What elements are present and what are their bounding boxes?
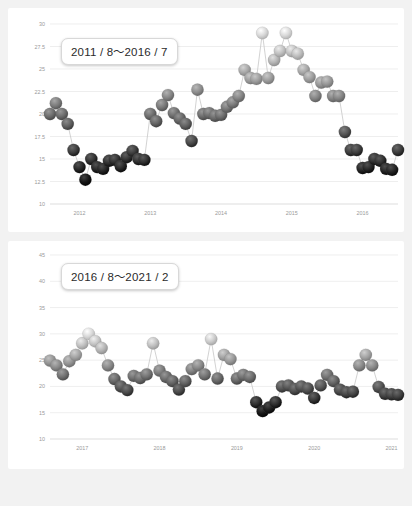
data-point-marker xyxy=(224,353,236,365)
y-axis-tick-label: 30 xyxy=(39,331,45,337)
data-point-marker xyxy=(347,385,359,397)
data-point-marker xyxy=(233,90,245,102)
y-axis-tick-label: 15 xyxy=(39,156,45,162)
data-point-marker xyxy=(392,144,404,156)
x-axis-tick-label: 2020 xyxy=(308,445,320,451)
y-axis-tick-label: 22.5 xyxy=(35,89,46,95)
x-axis-tick-label: 2017 xyxy=(76,445,88,451)
data-point-marker xyxy=(280,27,292,39)
data-point-marker xyxy=(274,45,286,57)
y-axis-tick-label: 40 xyxy=(39,278,45,284)
data-point-marker xyxy=(321,75,333,87)
data-point-marker xyxy=(262,72,274,84)
x-axis-tick-label: 2021 xyxy=(386,445,398,451)
data-point-marker xyxy=(292,48,304,60)
y-axis-tick-label: 15 xyxy=(39,410,45,416)
data-point-marker xyxy=(121,384,133,396)
chart-bottom-range-badge: 2016 / 8〜2021 / 2 xyxy=(61,263,179,290)
y-axis-tick-label: 45 xyxy=(39,252,45,258)
data-point-marker xyxy=(360,349,372,361)
data-point-marker xyxy=(73,161,85,173)
page-root: 1012.51517.52022.52527.53020122013201420… xyxy=(0,0,412,506)
data-point-marker xyxy=(309,90,321,102)
data-point-marker xyxy=(79,174,91,186)
data-point-marker xyxy=(366,359,378,371)
data-point-marker xyxy=(57,368,69,380)
y-axis-tick-label: 10 xyxy=(39,436,45,442)
y-axis-tick-label: 20 xyxy=(39,383,45,389)
chart-card-bottom: 101520253035404520172018201920202021 201… xyxy=(8,241,404,469)
data-point-marker xyxy=(185,135,197,147)
data-point-marker xyxy=(353,359,365,371)
x-axis-tick-label: 2013 xyxy=(144,210,156,216)
data-point-marker xyxy=(303,71,315,83)
x-axis-tick-label: 2018 xyxy=(154,445,166,451)
data-point-marker xyxy=(244,371,256,383)
x-axis-tick-label: 2015 xyxy=(286,210,298,216)
data-point-marker xyxy=(256,27,268,39)
data-point-marker xyxy=(269,396,281,408)
y-axis-tick-label: 27.5 xyxy=(35,44,46,50)
x-axis-tick-label: 2012 xyxy=(73,210,85,216)
y-axis-tick-label: 10 xyxy=(39,201,45,207)
data-point-marker xyxy=(140,368,152,380)
y-axis-tick-label: 35 xyxy=(39,305,45,311)
data-point-marker xyxy=(61,118,73,130)
data-point-marker xyxy=(308,392,320,404)
chart-top-range-badge: 2011 / 8〜2016 / 7 xyxy=(61,38,178,65)
data-point-marker xyxy=(44,108,56,120)
data-point-marker xyxy=(147,337,159,349)
x-axis-tick-label: 2016 xyxy=(357,210,369,216)
data-point-marker xyxy=(50,97,62,109)
data-point-marker xyxy=(333,90,345,102)
data-point-marker xyxy=(250,73,262,85)
data-point-marker xyxy=(162,89,174,101)
data-point-marker xyxy=(70,349,82,361)
data-point-marker xyxy=(67,144,79,156)
data-point-marker xyxy=(102,359,114,371)
y-axis-tick-label: 30 xyxy=(39,21,45,27)
data-point-marker xyxy=(191,84,203,96)
data-point-marker xyxy=(179,118,191,130)
data-point-marker xyxy=(95,342,107,354)
data-point-marker xyxy=(211,372,223,384)
data-point-marker xyxy=(205,333,217,345)
x-axis-tick-label: 2019 xyxy=(231,445,243,451)
chart-card-top: 1012.51517.52022.52527.53020122013201420… xyxy=(8,8,404,232)
data-point-marker xyxy=(386,164,398,176)
data-point-marker xyxy=(138,154,150,166)
data-point-marker xyxy=(392,389,404,401)
data-point-marker xyxy=(314,379,326,391)
y-axis-tick-label: 17.5 xyxy=(35,134,46,140)
x-axis-tick-label: 2014 xyxy=(215,210,227,216)
data-point-marker xyxy=(198,368,210,380)
data-point-marker xyxy=(339,126,351,138)
data-point-marker xyxy=(351,144,363,156)
y-axis-tick-label: 25 xyxy=(39,66,45,72)
data-point-marker xyxy=(179,375,191,387)
data-point-marker xyxy=(150,115,162,127)
y-axis-tick-label: 12.5 xyxy=(35,179,46,185)
